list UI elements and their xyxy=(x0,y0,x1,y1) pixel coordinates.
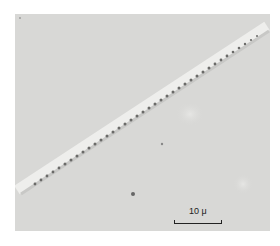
scale-bar-label: 10 μ xyxy=(189,206,207,216)
micrograph-photo xyxy=(15,14,270,231)
fiber-graphic xyxy=(15,14,270,231)
scale-bar xyxy=(174,220,222,224)
